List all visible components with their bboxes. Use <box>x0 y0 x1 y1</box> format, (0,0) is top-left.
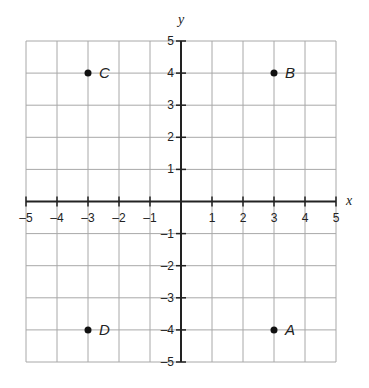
point-label: A <box>284 321 295 338</box>
y-tick-label: 1 <box>167 162 174 176</box>
y-axis-label: y <box>176 12 185 27</box>
y-tick-label: 2 <box>167 130 174 144</box>
x-tick-label: –5 <box>19 211 33 225</box>
axes <box>26 41 336 362</box>
x-tick-label: –2 <box>112 211 126 225</box>
x-tick-label: 2 <box>240 211 247 225</box>
point-marker <box>271 70 278 77</box>
y-tick-label: –3 <box>161 291 175 305</box>
point-marker <box>85 70 92 77</box>
y-tick-label: 3 <box>167 98 174 112</box>
y-tick-label: 4 <box>167 66 174 80</box>
x-tick-label: –1 <box>143 211 157 225</box>
point-label: D <box>99 321 110 338</box>
x-tick-label: 5 <box>333 211 340 225</box>
point-marker <box>85 326 92 333</box>
x-tick-label: 3 <box>271 211 278 225</box>
y-tick-label: –5 <box>161 355 175 369</box>
y-tick-label: –4 <box>161 323 175 337</box>
point-label: B <box>285 64 295 81</box>
y-tick-label: –2 <box>161 259 175 273</box>
y-tick-label: –1 <box>161 227 175 241</box>
point-label: C <box>99 64 110 81</box>
point-marker <box>271 326 278 333</box>
x-tick-label: 4 <box>302 211 309 225</box>
coordinate-plane: –5–4–3–2–112345 54321–1–2–3–4–5 x y ABCD <box>0 0 369 388</box>
x-axis-label: x <box>345 193 353 208</box>
x-tick-label: 1 <box>209 211 216 225</box>
y-tick-label: 5 <box>167 34 174 48</box>
x-tick-label: –3 <box>81 211 95 225</box>
x-tick-label: –4 <box>50 211 64 225</box>
